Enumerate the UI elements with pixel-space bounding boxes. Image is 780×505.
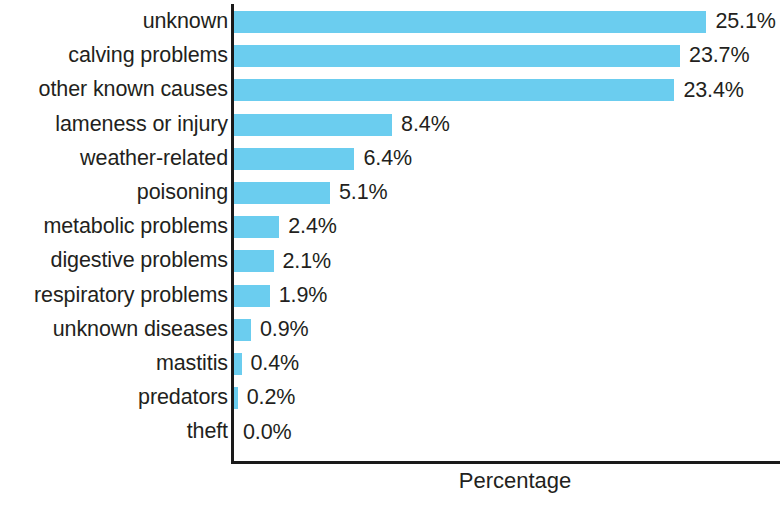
bar: [234, 11, 706, 33]
category-label: poisoning: [137, 182, 228, 204]
bar-row: theft0.0%: [0, 415, 780, 449]
value-label: 2.1%: [283, 251, 332, 273]
bar-and-value: 23.7%: [234, 39, 750, 73]
bar-and-value: 5.1%: [234, 176, 388, 210]
bar-row: unknown diseases0.9%: [0, 313, 780, 347]
bar-row: predators0.2%: [0, 381, 780, 415]
bar-and-value: 23.4%: [234, 73, 744, 107]
value-label: 0.9%: [260, 319, 309, 341]
bar-and-value: 6.4%: [234, 142, 412, 176]
bar-and-value: 2.4%: [234, 210, 337, 244]
category-label: mastitis: [156, 353, 228, 375]
bar: [234, 182, 330, 204]
bar: [234, 45, 680, 67]
value-label: 2.4%: [288, 216, 337, 238]
y-axis-line: [231, 4, 234, 463]
value-label: 8.4%: [401, 114, 450, 136]
category-label: respiratory problems: [34, 285, 228, 307]
value-label: 0.4%: [251, 353, 300, 375]
bar-and-value: 1.9%: [234, 279, 327, 313]
value-label: 23.4%: [683, 80, 743, 102]
category-label: weather-related: [80, 148, 228, 170]
value-label: 6.4%: [363, 148, 412, 170]
bar: [234, 319, 251, 341]
bar-row: mastitis0.4%: [0, 347, 780, 381]
category-label: theft: [187, 422, 228, 444]
x-axis-title: Percentage: [0, 470, 780, 492]
category-label: metabolic problems: [43, 216, 228, 238]
plot-area: unknown25.1%calving problems23.7%other k…: [0, 0, 780, 465]
value-label: 25.1%: [715, 11, 775, 33]
category-label: unknown: [143, 11, 228, 33]
value-label: 5.1%: [339, 182, 388, 204]
bar: [234, 387, 238, 409]
bar-row: calving problems23.7%: [0, 39, 780, 73]
bar-and-value: 2.1%: [234, 244, 331, 278]
bar-row: respiratory problems1.9%: [0, 279, 780, 313]
bar: [234, 216, 279, 238]
category-label: digestive problems: [51, 251, 228, 273]
bar-row: other known causes23.4%: [0, 73, 780, 107]
bar-row: lameness or injury8.4%: [0, 108, 780, 142]
bar-row: poisoning5.1%: [0, 176, 780, 210]
bar-chart: unknown25.1%calving problems23.7%other k…: [0, 0, 780, 505]
bar: [234, 250, 274, 272]
bar-row: metabolic problems2.4%: [0, 210, 780, 244]
category-label: other known causes: [39, 80, 228, 102]
x-axis-line: [231, 461, 780, 464]
value-label: 0.2%: [247, 387, 296, 409]
bar: [234, 353, 242, 375]
bar-and-value: 0.9%: [234, 313, 309, 347]
bar-and-value: 0.0%: [234, 415, 292, 449]
value-label: 1.9%: [279, 285, 328, 307]
value-label: 23.7%: [689, 45, 749, 67]
category-label: predators: [138, 387, 228, 409]
bar-row: weather-related6.4%: [0, 142, 780, 176]
bar: [234, 285, 270, 307]
bar-and-value: 8.4%: [234, 108, 450, 142]
bar-and-value: 0.2%: [234, 381, 295, 415]
bar: [234, 114, 392, 136]
bar-and-value: 25.1%: [234, 5, 776, 39]
category-label: calving problems: [68, 45, 228, 67]
bar-and-value: 0.4%: [234, 347, 299, 381]
bar: [234, 79, 674, 101]
bar: [234, 148, 354, 170]
value-label: 0.0%: [243, 422, 292, 444]
category-label: unknown diseases: [53, 319, 228, 341]
bar-row: unknown25.1%: [0, 5, 780, 39]
category-label: lameness or injury: [55, 114, 228, 136]
bar-row: digestive problems2.1%: [0, 244, 780, 278]
